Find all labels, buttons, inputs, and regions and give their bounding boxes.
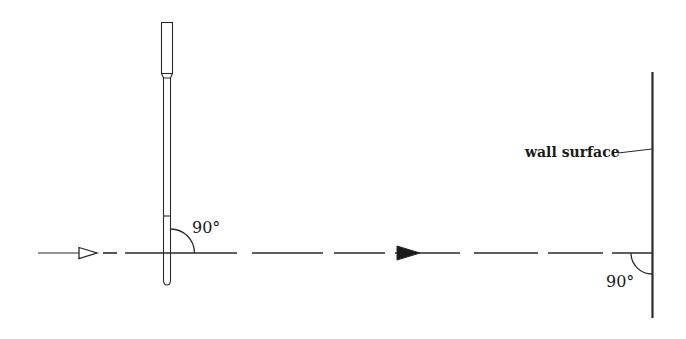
wall-label-leader: [618, 149, 652, 153]
open-arrowhead-icon: [79, 248, 97, 259]
rod-cap: [162, 23, 173, 74]
wall-angle-arc: [631, 253, 652, 274]
rod-angle-arc: [171, 229, 195, 253]
wall-angle-label: 90°: [606, 272, 634, 291]
rod-shaft: [164, 78, 171, 285]
wall-surface-label: wall surface: [525, 144, 620, 160]
alignment-diagram: 90° 90° wall surface: [0, 0, 686, 339]
rod: [162, 23, 173, 286]
rod-angle-label: 90°: [192, 218, 220, 237]
rod-taper: [162, 74, 173, 79]
diagram-canvas: [0, 0, 686, 339]
filled-arrowhead-icon: [397, 246, 420, 260]
